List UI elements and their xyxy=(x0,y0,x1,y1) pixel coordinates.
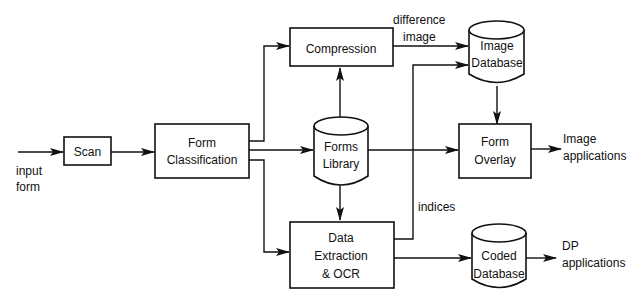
label-text: difference xyxy=(393,13,446,27)
label-input-form: input form xyxy=(16,164,43,194)
node-form-classification: Form Classification xyxy=(155,124,249,178)
node-label: Database xyxy=(473,267,525,281)
label-difference-image: difference image xyxy=(393,13,446,44)
label-text: form xyxy=(16,180,40,194)
node-label: Database xyxy=(471,56,523,70)
node-label: Data xyxy=(328,231,354,245)
node-label: Extraction xyxy=(314,249,367,263)
node-coded-database: Coded Database xyxy=(472,224,526,288)
label-dp-applications: DP applications xyxy=(562,239,625,270)
label-text: input xyxy=(16,164,43,178)
label-image-applications: Image applications xyxy=(563,132,626,163)
node-label: Image xyxy=(480,39,514,53)
node-label: Library xyxy=(323,157,360,171)
label-text: Image xyxy=(563,132,597,146)
edge-classification-to-extraction xyxy=(249,160,289,252)
node-data-extraction: Data Extraction & OCR xyxy=(290,222,394,288)
node-label: Classification xyxy=(167,153,238,167)
node-forms-library: Forms Library xyxy=(314,117,368,185)
node-label: Forms xyxy=(324,140,358,154)
node-label: Coded xyxy=(481,249,516,263)
node-scan: Scan xyxy=(64,137,111,165)
label-text: applications xyxy=(562,256,625,270)
edge-classification-to-compression xyxy=(249,46,289,141)
label-text: applications xyxy=(563,149,626,163)
node-label: Form xyxy=(481,135,509,149)
node-form-overlay: Form Overlay xyxy=(459,124,531,178)
form-processing-diagram: Scan Form Classification Compression Dat… xyxy=(0,0,641,306)
node-label: & OCR xyxy=(322,267,360,281)
node-label: Scan xyxy=(74,145,101,159)
node-label: Compression xyxy=(306,42,377,56)
label-indices: indices xyxy=(418,200,455,214)
node-image-database: Image Database xyxy=(469,21,524,83)
label-text: DP xyxy=(562,239,579,253)
node-compression: Compression xyxy=(290,28,393,66)
node-label: Overlay xyxy=(474,153,515,167)
label-text: image xyxy=(403,30,436,44)
node-label: Form xyxy=(188,136,216,150)
